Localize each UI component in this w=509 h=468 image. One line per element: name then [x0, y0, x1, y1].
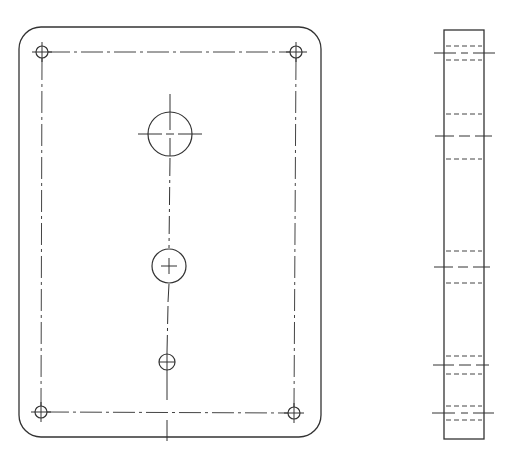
side-section-top-corner — [434, 46, 495, 60]
side-view — [432, 30, 495, 439]
corner-hole-bottom-right — [284, 403, 304, 423]
small-hole — [159, 352, 175, 370]
technical-drawing — [0, 0, 509, 468]
large-hole — [138, 112, 202, 156]
front-view — [19, 27, 321, 441]
plate-outline — [19, 27, 321, 437]
corner-hole-top-left — [32, 42, 52, 62]
corner-hole-bottom-left — [31, 402, 51, 422]
corner-hole-top-right — [286, 42, 307, 62]
side-section-bottom-corner — [432, 406, 494, 420]
side-section-small-hole — [433, 356, 489, 374]
side-outline — [444, 30, 484, 439]
side-section-medium-hole — [434, 251, 490, 283]
medium-hole — [152, 249, 186, 283]
bolt-pattern-centerlines — [41, 52, 296, 413]
